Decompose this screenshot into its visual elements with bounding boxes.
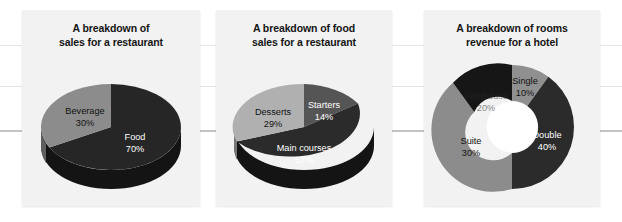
- chart-title-line-2: sales for a restaurant: [252, 36, 356, 48]
- chart-title-line-2: sales for a restaurant: [59, 36, 163, 48]
- pie-chart-food-sales-breakdown: Starters 14% Desserts 29% Main courses 5…: [216, 52, 392, 202]
- chart-panel-group: A breakdown of sales for a restaurant Be…: [0, 0, 622, 222]
- pie-label-food-percent: 70%: [126, 144, 144, 154]
- chart-panel-food-sales-breakdown: A breakdown of food sales for a restaura…: [216, 10, 392, 206]
- chart-title-food-sales-breakdown: A breakdown of food sales for a restaura…: [216, 22, 392, 49]
- donut-label-suite-percent: 30%: [462, 148, 480, 158]
- chart-area-rooms-revenue-breakdown: Single 10% Double 40% Suite 30% Penthous…: [424, 52, 600, 202]
- chart-title-line-1: A breakdown of: [73, 22, 150, 34]
- donut-label-penthouse-name: Penthouse: [464, 91, 508, 101]
- chart-area-sales-breakdown: Beverage 30% Food 70%: [22, 52, 200, 202]
- pie-label-food-name: Food: [125, 132, 146, 142]
- chart-title-sales-breakdown: A breakdown of sales for a restaurant: [22, 22, 200, 49]
- chart-panel-rooms-revenue-breakdown: A breakdown of rooms revenue for a hotel…: [424, 10, 600, 206]
- pie-label-desserts-name: Desserts: [255, 107, 292, 117]
- pie-label-beverage-name: Beverage: [65, 106, 104, 116]
- chart-panel-sales-breakdown: A breakdown of sales for a restaurant Be…: [22, 10, 200, 206]
- pie-label-main-courses-percent: 57%: [295, 155, 313, 165]
- chart-title-line-2: revenue for a hotel: [466, 36, 558, 48]
- pie-label-main-courses-name: Main courses: [277, 143, 332, 153]
- donut-label-single-name: Single: [512, 76, 538, 86]
- donut-label-single-percent: 10%: [516, 88, 534, 98]
- chart-title-line-1: A breakdown of food: [253, 22, 355, 34]
- chart-area-food-sales-breakdown: Starters 14% Desserts 29% Main courses 5…: [216, 52, 392, 202]
- donut-label-double-percent: 40%: [538, 142, 556, 152]
- chart-title-rooms-revenue-breakdown: A breakdown of rooms revenue for a hotel: [424, 22, 600, 49]
- chart-title-line-1: A breakdown of rooms: [456, 22, 567, 34]
- pie-label-beverage-percent: 30%: [76, 118, 94, 128]
- donut-chart-rooms-revenue: Single 10% Double 40% Suite 30% Penthous…: [424, 52, 600, 202]
- pie-chart-sales-breakdown: Beverage 30% Food 70%: [22, 52, 200, 202]
- donut-label-suite-name: Suite: [461, 136, 482, 146]
- donut-label-double-name: Double: [532, 130, 561, 140]
- donut-label-penthouse-percent: 20%: [477, 103, 495, 113]
- pie-label-starters-name: Starters: [308, 100, 341, 110]
- pie-label-starters-percent: 14%: [315, 112, 333, 122]
- pie-label-desserts-percent: 29%: [264, 119, 282, 129]
